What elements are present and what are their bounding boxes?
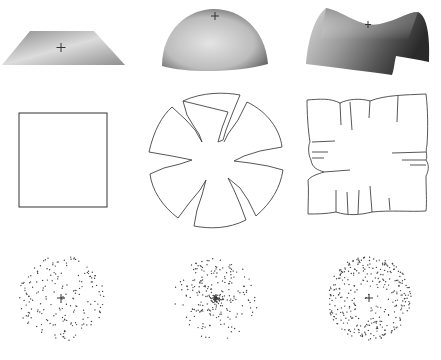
center-crosshair-icon: [57, 294, 65, 302]
center-crosshair-icon: [365, 294, 373, 302]
